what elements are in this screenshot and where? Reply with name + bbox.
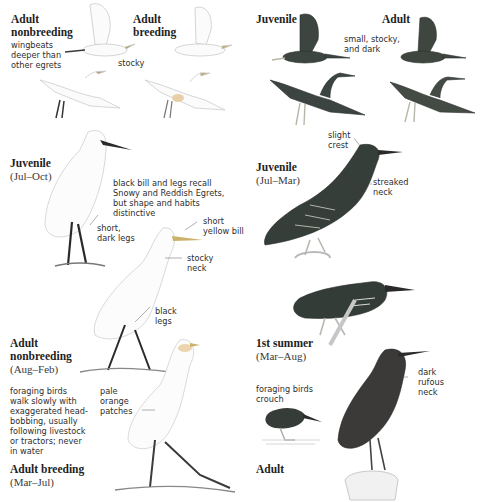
- heron-juvenile-heading: Juvenile: [256, 161, 297, 174]
- note-line: dark legs: [97, 233, 135, 243]
- note-line: streaked: [373, 177, 408, 187]
- heron-flight-juvenile-heading: Juvenile: [256, 13, 297, 26]
- note-line: other egrets: [11, 60, 61, 70]
- egret-orange-patches-note: pale orange patches: [100, 386, 132, 416]
- note-line: pale: [100, 386, 132, 396]
- note-line: Snowy and Reddish Egrets,: [113, 188, 224, 198]
- heron-foraging-crouch-icon: [262, 408, 322, 444]
- note-line: and dark: [344, 44, 400, 54]
- note-line: but shape and habits: [113, 198, 224, 208]
- heron-first-summer-season: (Mar–Aug): [256, 350, 306, 363]
- egret-flight-breeding-heading: Adult breeding: [133, 13, 176, 39]
- egret-juvenile-heading: Juvenile: [10, 157, 51, 170]
- note-line: yellow bill: [203, 226, 244, 236]
- heron-flight-adult-icon: [401, 17, 466, 63]
- note-line: exaggerated head-: [10, 406, 88, 416]
- heading-line: Adult: [133, 13, 176, 26]
- egret-juvenile-bill-legs-note: black bill and legs recall Snowy and Red…: [113, 178, 224, 218]
- note-line: wingbeats: [11, 40, 61, 50]
- egret-flight-breeding-low-icon: [145, 73, 225, 118]
- note-line: rufous: [418, 377, 444, 387]
- egret-black-legs-note: black legs: [155, 306, 177, 326]
- heron-flight-juvenile-low-icon: [270, 73, 365, 125]
- egret-adult-breeding-heading: Adult breeding: [10, 463, 84, 476]
- note-line: crouch: [256, 394, 313, 404]
- note-line: deeper than: [11, 50, 61, 60]
- heron-flight-adult-heading: Adult: [382, 13, 410, 26]
- heron-juvenile-season: (Jul–Mar): [256, 174, 300, 187]
- heron-rufous-neck-note: dark rufous neck: [418, 367, 444, 397]
- heron-flight-note: small, stocky, and dark: [344, 34, 400, 54]
- heron-foraging-note: foraging birds crouch: [256, 384, 313, 404]
- egret-juvenile-season: (Jul–Oct): [10, 170, 52, 183]
- egret-foraging-note: foraging birds walk slowly with exaggera…: [10, 386, 88, 456]
- heading-line: nonbreeding: [11, 26, 73, 39]
- egret-wingbeat-note: wingbeats deeper than other egrets: [11, 40, 61, 70]
- note-line: foraging birds: [10, 386, 88, 396]
- note-line: neck: [418, 387, 444, 397]
- note-line: or tractors; never: [10, 436, 88, 446]
- egret-short-yellow-bill-note: short yellow bill: [203, 216, 244, 236]
- note-line: black bill and legs recall: [113, 178, 224, 188]
- heron-slight-crest-note: slight crest: [328, 130, 350, 150]
- note-line: crest: [328, 140, 350, 150]
- heading-line: breeding: [133, 26, 176, 39]
- egret-stocky-note: stocky: [118, 58, 144, 68]
- note-line: bobbing, usually: [10, 416, 88, 426]
- egret-flight-breeding-icon: [175, 7, 232, 56]
- note-line: slight: [328, 130, 350, 140]
- egret-flight-nonbreeding-heading: Adult nonbreeding: [11, 13, 73, 39]
- note-line: orange: [100, 396, 132, 406]
- heron-adult-standing-icon: [338, 349, 430, 500]
- egret-stocky-neck-note: stocky neck: [187, 253, 213, 273]
- egret-adult-breeding-standing-icon: [115, 340, 235, 492]
- note-line: small, stocky,: [344, 34, 400, 44]
- egret-adult-nonbreeding-heading: Adult nonbreeding: [10, 337, 72, 363]
- heron-adult-heading: Adult: [256, 463, 284, 476]
- note-line: neck: [187, 263, 213, 273]
- note-line: short,: [97, 223, 135, 233]
- heron-streaked-neck-note: streaked neck: [373, 177, 408, 197]
- heron-first-summer-heading: 1st summer: [256, 337, 313, 350]
- note-line: black: [155, 306, 177, 316]
- note-line: foraging birds: [256, 384, 313, 394]
- egret-flight-nonbreeding-low-icon: [40, 71, 120, 118]
- note-line: walk slowly with: [10, 396, 88, 406]
- heading-line: Adult: [11, 13, 73, 26]
- note-line: following livestock: [10, 426, 88, 436]
- heading-line: nonbreeding: [10, 350, 72, 363]
- note-line: short: [203, 216, 244, 226]
- note-line: patches: [100, 406, 132, 416]
- egret-adult-nonbreeding-season: (Aug–Feb): [10, 363, 58, 376]
- egret-flight-nonbreeding-icon: [65, 4, 135, 56]
- note-line: dark: [418, 367, 444, 377]
- egret-adult-breeding-season: (Mar–Jul): [10, 476, 54, 489]
- note-line: in water: [10, 446, 88, 456]
- heading-line: Adult: [10, 337, 72, 350]
- note-line: legs: [155, 316, 177, 326]
- note-line: neck: [373, 187, 408, 197]
- note-line: stocky: [187, 253, 213, 263]
- egret-juvenile-legs-note: short, dark legs: [97, 223, 135, 243]
- heron-first-summer-icon: [294, 282, 415, 345]
- heron-flight-adult-low-icon: [390, 77, 475, 122]
